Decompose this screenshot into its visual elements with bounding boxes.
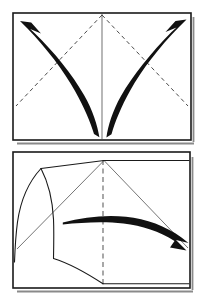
panel-top-frame-shadow	[17, 17, 194, 144]
panel-bottom-lateral-sweep-arrow	[63, 216, 189, 251]
panel-top-right-sweep-arrow	[106, 20, 186, 138]
panel-top-fold-right	[102, 15, 188, 106]
panel-bottom-ridge-left	[41, 161, 104, 169]
panel-top-left-sweep-arrow	[20, 21, 99, 137]
figure-root: Two-panel line-drawing diagram of a defo…	[0, 0, 204, 302]
panel-bottom	[13, 152, 193, 292]
panel-bottom-frame-shadow	[17, 157, 193, 292]
panel-bottom-construction-diagonal-left	[17, 161, 104, 250]
diagram-canvas	[0, 0, 204, 302]
panel-bottom-lower-sheet-edge	[54, 259, 104, 284]
panel-top	[13, 13, 194, 144]
